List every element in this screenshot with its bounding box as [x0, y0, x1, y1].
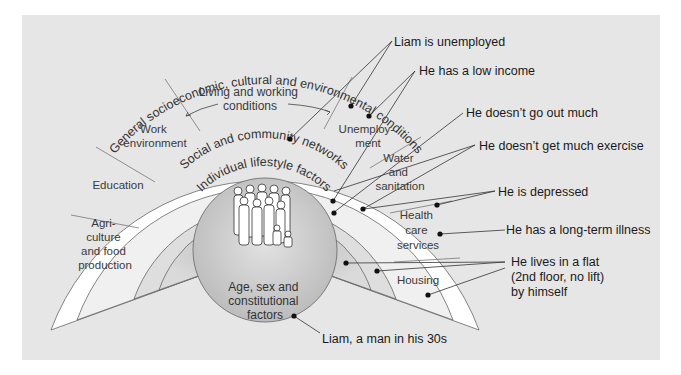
callout-flat: He lives in a flat (2nd floor, no lift) … [511, 255, 608, 299]
living-working-title: Living and working conditions [199, 85, 302, 113]
callout-exercise: He doesn’t get much exercise [479, 139, 644, 153]
callout-unemployed: Liam is unemployed [394, 35, 505, 49]
callout-illness: He has a long-term illness [506, 223, 651, 237]
callout-low-income: He has a low income [419, 64, 535, 78]
segment-water: Water and sanitation [375, 152, 424, 192]
segment-housing: Housing [397, 274, 439, 286]
callout-liam: Liam, a man in his 30s [322, 332, 447, 346]
health-determinants-diagram: Age, sex and constitutional factors Gene… [0, 0, 681, 375]
segment-education: Education [92, 179, 143, 191]
callout-depressed: He is depressed [498, 185, 588, 199]
callout-go-out: He doesn’t go out much [466, 106, 598, 120]
